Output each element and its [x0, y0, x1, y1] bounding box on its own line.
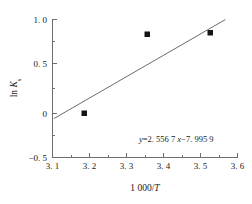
x-tick-label-3.3: 3. 3 [120, 161, 134, 171]
plot-background [0, 0, 252, 204]
x-tick-label-3.6: 3. 6 [231, 161, 245, 171]
equation-intercept: −7. 995 9 [181, 134, 213, 144]
x-axis-title: 1 000/T [130, 183, 160, 193]
x-tick-label-3.1: 3. 1 [46, 161, 60, 171]
equation-slope: =2. 556 7 [143, 134, 178, 144]
x-tick-label-3.5: 3. 5 [194, 161, 208, 171]
y-tick-label-minus0.5: −0. 5 [28, 153, 47, 163]
y-tick-label-0.5: 0. 5 [34, 59, 48, 69]
vant-hoff-scatter-plot: 1. 0 0. 5 0 −0. 5 3. 1 3. 2 3. 3 3. 4 3.… [0, 0, 252, 204]
chart-figure: 1. 0 0. 5 0 −0. 5 3. 1 3. 2 3. 3 3. 4 3.… [0, 0, 252, 204]
data-point-marker [208, 30, 214, 36]
y-tick-label-1.0: 1. 0 [34, 15, 48, 25]
data-point-marker [82, 111, 88, 117]
x-axis-title-number: 1 000/ [130, 183, 154, 193]
y-tick-label-0: 0 [43, 109, 48, 119]
data-point-marker [145, 32, 151, 38]
y-axis-title-prefix: ln [9, 88, 19, 98]
x-axis-title-variable: T [154, 183, 160, 193]
x-tick-label-3.4: 3. 4 [157, 161, 171, 171]
x-tick-label-3.2: 3. 2 [83, 161, 97, 171]
regression-equation-label: y=2. 556 7 x−7. 995 9 [138, 134, 214, 144]
